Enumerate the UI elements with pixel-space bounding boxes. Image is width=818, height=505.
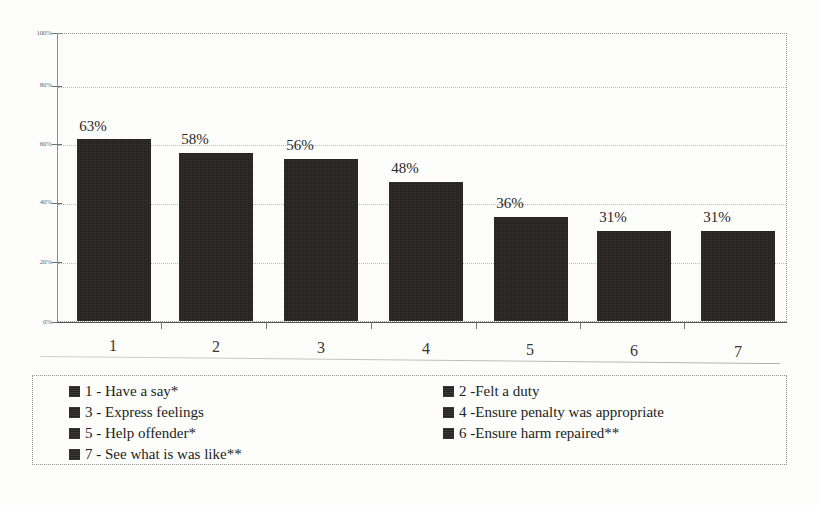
bar-4 [389, 182, 463, 321]
bar-value-2: 58% [158, 131, 232, 148]
x-tick-label-3: 3 [301, 339, 341, 357]
bar-5 [494, 217, 568, 321]
legend-swatch-icon-4 [443, 407, 454, 418]
bar-value-3: 56% [263, 137, 337, 154]
x-tick-mark-1 [161, 322, 162, 329]
legend-swatch-icon-5 [69, 428, 80, 439]
legend-label-2: 2 -Felt a duty [459, 384, 539, 399]
x-tick-mark-5 [580, 322, 581, 329]
legend-label-7: 7 - See what is was like** [85, 447, 242, 462]
bar-value-4: 48% [368, 160, 442, 177]
bar-value-5: 36% [473, 195, 547, 212]
legend-swatch-icon-2 [443, 386, 454, 397]
y-tick-label-40: 40% [6, 198, 52, 206]
legend-item-5: 5 - Help offender* [69, 426, 196, 441]
y-tick-label-60: 60% [6, 140, 52, 148]
bar-6 [597, 231, 671, 321]
legend-swatch-icon-1 [69, 386, 80, 397]
bar-value-1: 63% [56, 118, 130, 135]
legend-item-6: 6 -Ensure harm repaired** [443, 426, 619, 441]
bar-value-6: 31% [576, 209, 650, 226]
legend-swatch-icon-7 [69, 449, 80, 460]
bar-7 [701, 231, 775, 321]
y-tick-label-20: 20% [6, 258, 52, 266]
legend-label-6: 6 -Ensure harm repaired** [459, 426, 619, 441]
x-tick-label-2: 2 [196, 338, 236, 356]
legend-item-7: 7 - See what is was like** [69, 447, 242, 462]
x-tick-label-4: 4 [406, 340, 446, 358]
legend-label-5: 5 - Help offender* [85, 426, 196, 441]
legend-swatch-icon-6 [443, 428, 454, 439]
x-tick-mark-6 [684, 322, 685, 329]
x-tick-label-7: 7 [718, 343, 758, 361]
x-tick-mark-4 [476, 322, 477, 329]
bar-1 [77, 139, 151, 321]
x-tick-mark-3 [371, 322, 372, 329]
chart-legend: 1 - Have a say* 2 -Felt a duty 3 - Expre… [32, 375, 787, 465]
y-tick-label-100: 100% [6, 29, 52, 37]
bar-2 [179, 153, 253, 321]
legend-swatch-icon-3 [69, 407, 80, 418]
legend-label-1: 1 - Have a say* [85, 384, 178, 399]
x-axis-line [57, 322, 787, 323]
legend-item-3: 3 - Express feelings [69, 405, 204, 420]
legend-items-grid: 1 - Have a say* 2 -Felt a duty 3 - Expre… [33, 376, 786, 464]
y-tick-label-80: 80% [6, 81, 52, 89]
bar-value-7: 31% [680, 209, 754, 226]
gridline-80 [58, 87, 786, 88]
y-tick-label-0: 0% [6, 318, 52, 326]
x-tick-label-6: 6 [614, 342, 654, 360]
bar-3 [284, 159, 358, 321]
legend-item-1: 1 - Have a say* [69, 384, 178, 399]
legend-label-3: 3 - Express feelings [85, 405, 204, 420]
legend-label-4: 4 -Ensure penalty was appropriate [459, 405, 664, 420]
x-tick-label-1: 1 [93, 337, 133, 355]
legend-item-4: 4 -Ensure penalty was appropriate [443, 405, 664, 420]
legend-item-2: 2 -Felt a duty [443, 384, 539, 399]
x-tick-mark-2 [266, 322, 267, 329]
plot-area [57, 33, 787, 322]
x-tick-label-5: 5 [510, 341, 550, 359]
